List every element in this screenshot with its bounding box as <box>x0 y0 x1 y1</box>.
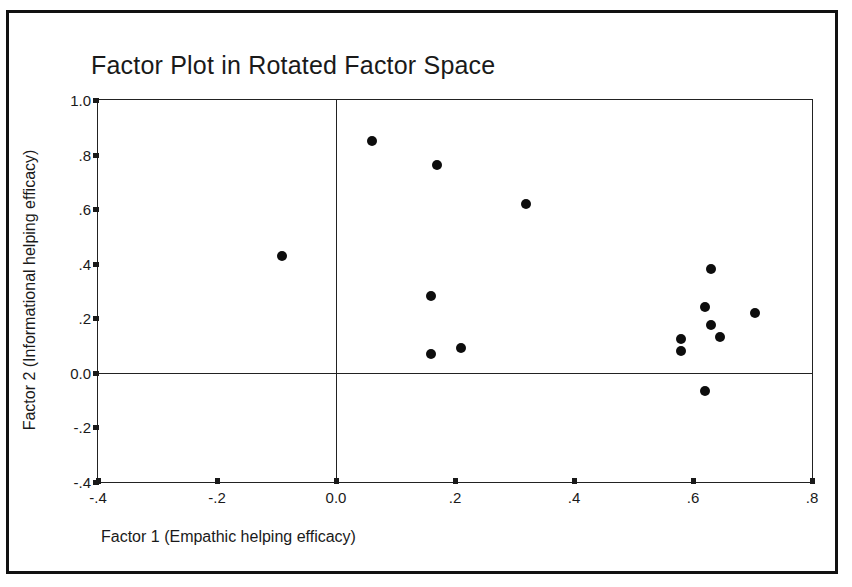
y-tick-label: .6 <box>78 201 91 218</box>
x-tick-mark <box>810 478 815 484</box>
x-tick-label: 0.0 <box>326 489 347 506</box>
x-tick-mark <box>334 478 339 484</box>
data-point <box>676 346 686 356</box>
x-tick-label: -.2 <box>208 489 226 506</box>
y-tick-mark <box>93 262 99 267</box>
data-point <box>456 343 466 353</box>
x-tick-mark <box>215 478 220 484</box>
data-point <box>277 251 287 261</box>
y-tick-label: .8 <box>78 146 91 163</box>
y-tick-label: -.2 <box>73 419 91 436</box>
y-tick-mark <box>93 98 99 103</box>
x-tick-mark <box>453 478 458 484</box>
data-point <box>706 264 716 274</box>
y-tick-mark <box>93 153 99 158</box>
data-point <box>700 302 710 312</box>
x-tick-mark <box>572 478 577 484</box>
y-tick-mark <box>93 316 99 321</box>
page-title: Factor Plot in Rotated Factor Space <box>91 51 495 80</box>
y-tick-mark <box>93 371 99 376</box>
data-point <box>750 308 760 318</box>
data-point <box>426 349 436 359</box>
y-tick-label: .2 <box>78 310 91 327</box>
plot-area: 1.0.8.6.4.20.0-.2-.4-.4-.20.0.2.4.6.8 <box>97 99 813 483</box>
x-tick-label: .6 <box>687 489 700 506</box>
x-tick-label: -.4 <box>89 489 107 506</box>
y-tick-label: -.4 <box>73 474 91 491</box>
data-point <box>367 136 377 146</box>
data-point <box>706 320 716 330</box>
y-axis-title: Factor 2 (Informational helping efficacy… <box>19 99 41 481</box>
y-tick-mark <box>93 207 99 212</box>
data-point <box>676 334 686 344</box>
data-point <box>426 291 436 301</box>
x-tick-label: .8 <box>806 489 819 506</box>
x-tick-mark <box>691 478 696 484</box>
data-point <box>700 386 710 396</box>
y-tick-label: 0.0 <box>70 364 91 381</box>
reference-line-vertical <box>336 100 337 482</box>
reference-line-horizontal <box>98 373 812 374</box>
x-tick-mark <box>96 478 101 484</box>
plot-canvas <box>98 100 812 482</box>
y-tick-mark <box>93 425 99 430</box>
y-axis-title-label: Factor 2 (Informational helping efficacy… <box>21 150 39 431</box>
factor-plot-figure: Factor Plot in Rotated Factor Space Fact… <box>9 13 835 571</box>
x-axis-title: Factor 1 (Empathic helping efficacy) <box>101 528 356 546</box>
data-point <box>521 199 531 209</box>
data-point <box>715 332 725 342</box>
x-tick-label: .2 <box>449 489 462 506</box>
x-tick-label: .4 <box>568 489 581 506</box>
y-tick-label: .4 <box>78 255 91 272</box>
y-tick-label: 1.0 <box>70 92 91 109</box>
figure-frame: Factor Plot in Rotated Factor Space Fact… <box>6 10 838 574</box>
data-point <box>432 160 442 170</box>
